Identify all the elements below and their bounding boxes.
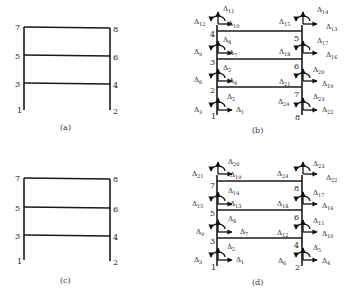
dof-label: Δ3 xyxy=(194,256,202,265)
dof-label: Δ7 xyxy=(229,49,237,58)
dof-label: Δ16 xyxy=(326,51,337,60)
dof-label: Δ10 xyxy=(228,20,239,29)
node-label-3: 3 xyxy=(210,237,215,246)
dof-label: Δ4 xyxy=(322,257,330,266)
node-label-6: 6 xyxy=(113,53,118,62)
dof-label: Δ1 xyxy=(236,256,244,265)
dof-label: Δ1 xyxy=(236,106,244,115)
caption-c: (c) xyxy=(60,276,71,285)
node-label-4: 4 xyxy=(113,233,118,242)
frame-c xyxy=(24,178,110,261)
dof-label: Δ11 xyxy=(223,5,234,14)
dof-label: Δ14 xyxy=(228,187,239,196)
caption-a: (a) xyxy=(60,123,71,132)
dof-label: Δ9 xyxy=(194,48,202,57)
node-label-5: 5 xyxy=(210,209,215,218)
node-label-3: 3 xyxy=(15,80,20,89)
node-label-7: 7 xyxy=(210,181,215,190)
node-label-4: 4 xyxy=(294,241,299,250)
dof-label: Δ15 xyxy=(279,18,290,27)
node-label-5: 5 xyxy=(15,52,20,61)
node-label-2: 2 xyxy=(210,86,215,95)
dof-label: Δ21 xyxy=(279,78,290,87)
dof-label: Δ17 xyxy=(313,189,324,198)
node-label-1: 1 xyxy=(17,106,22,115)
dof-label: Δ3 xyxy=(194,106,202,115)
dof-label: Δ6 xyxy=(278,257,286,266)
node-label-4: 4 xyxy=(113,81,118,90)
dof-label: Δ20 xyxy=(228,158,239,167)
dof-label: Δ4 xyxy=(229,77,237,86)
dof-label: Δ11 xyxy=(313,217,324,226)
node-label-7: 7 xyxy=(15,174,20,183)
dof-label: Δ12 xyxy=(277,229,288,238)
dof-label: Δ7 xyxy=(240,228,248,237)
frame-a xyxy=(24,27,110,110)
dof-label: Δ14 xyxy=(317,6,328,15)
dof-label: Δ5 xyxy=(223,64,231,73)
dof-label: Δ17 xyxy=(317,37,328,46)
dof-label: Δ24 xyxy=(278,98,289,107)
dof-label: Δ21 xyxy=(192,170,203,179)
dof-label: Δ8 xyxy=(228,215,236,224)
node-label-2: 2 xyxy=(113,107,118,116)
node-label-7: 7 xyxy=(15,23,20,32)
node-label-5: 5 xyxy=(294,34,299,43)
node-label-1: 1 xyxy=(17,257,22,266)
node-label-1: 1 xyxy=(211,112,216,121)
dof-label: Δ9 xyxy=(196,228,204,237)
dof-label: Δ16 xyxy=(322,202,333,211)
node-label-4: 4 xyxy=(210,30,215,39)
panel-b: 4 5 3 6 2 7 1 8 Δ10 Δ11 Δ12 Δ7 Δ8 Δ9 Δ4 … xyxy=(194,5,337,135)
dof-label: Δ13 xyxy=(326,23,337,32)
node-label-8: 8 xyxy=(113,175,118,184)
node-label-6: 6 xyxy=(294,213,299,222)
node-label-3: 3 xyxy=(210,58,215,67)
dof-label: Δ19 xyxy=(322,80,333,89)
dof-label: Δ20 xyxy=(313,66,324,75)
caption-d: (d) xyxy=(252,278,263,287)
dof-label: Δ15 xyxy=(192,200,203,209)
panel-c: 7 8 5 6 3 4 1 2 (c) xyxy=(15,174,118,285)
dof-label: Δ8 xyxy=(223,36,231,45)
node-label-8: 8 xyxy=(294,184,299,193)
dof-label: Δ18 xyxy=(279,48,290,57)
dof-label: Δ2 xyxy=(227,93,235,102)
node-label-5: 5 xyxy=(15,204,20,213)
node-label-8: 8 xyxy=(295,113,300,122)
dof-label: Δ22 xyxy=(326,174,337,183)
dof-label: Δ23 xyxy=(313,160,324,169)
dof-label: Δ12 xyxy=(194,18,205,27)
panel-a: 7 8 5 6 3 4 1 2 (a) xyxy=(15,23,118,132)
dof-label: Δ19 xyxy=(230,171,241,180)
panel-d: 7 8 5 6 3 4 1 2 Δ19 Δ20 Δ21 Δ13 Δ14 Δ15 … xyxy=(192,158,337,287)
node-label-3: 3 xyxy=(15,232,20,241)
dof-arrows-icon xyxy=(296,12,317,24)
dof-label: Δ18 xyxy=(277,200,288,209)
dof-label: Δ10 xyxy=(322,230,333,239)
dof-label: Δ22 xyxy=(322,106,333,115)
node-label-7: 7 xyxy=(294,90,299,99)
dof-label: Δ2 xyxy=(227,243,235,252)
dof-label: Δ13 xyxy=(230,200,241,209)
node-label-2: 2 xyxy=(295,263,300,272)
node-label-2: 2 xyxy=(113,258,118,267)
dof-label: Δ5 xyxy=(313,244,321,253)
node-label-8: 8 xyxy=(113,25,118,34)
dof-arrows-icon xyxy=(296,41,317,53)
dof-label: Δ24 xyxy=(277,170,288,179)
node-label-6: 6 xyxy=(113,205,118,214)
dof-label: Δ23 xyxy=(313,93,324,102)
dof-label: Δ6 xyxy=(194,76,202,85)
caption-b: (b) xyxy=(252,126,263,135)
node-label-6: 6 xyxy=(294,62,299,71)
node-label-1: 1 xyxy=(211,263,216,272)
